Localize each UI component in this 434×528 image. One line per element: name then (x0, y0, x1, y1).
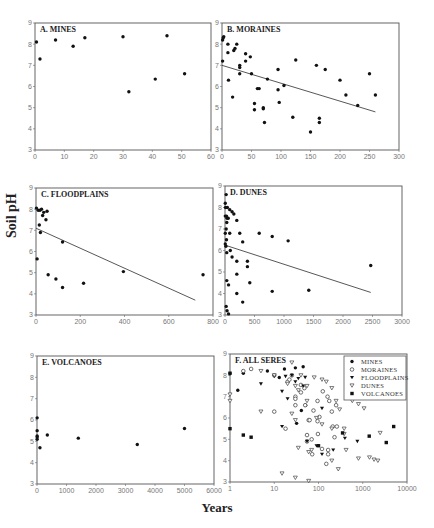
y-tick-label: 4 (223, 457, 227, 464)
y-tick-label: 9 (30, 352, 34, 359)
data-point-volcanoes (228, 372, 231, 375)
data-point-volcanoes (392, 425, 395, 428)
data-point-moraines (316, 432, 320, 436)
data-point (201, 273, 204, 276)
x-tick-label: 400 (119, 318, 131, 325)
x-tick-label: 3000 (394, 318, 410, 325)
x-tick-label: 40 (148, 153, 156, 160)
data-point (35, 257, 38, 260)
data-point (225, 279, 228, 282)
y-tick-label: 6 (30, 416, 34, 423)
data-point (222, 35, 225, 38)
y-tick-label: 3 (30, 480, 34, 487)
data-point-moraines (272, 410, 276, 414)
data-point (35, 429, 38, 432)
legend-label-moraines: MORAINES (361, 366, 397, 373)
data-point (154, 77, 157, 80)
y-tick-label: 6 (28, 83, 32, 90)
data-point (294, 58, 297, 61)
x-tick-label: 60 (207, 153, 215, 160)
data-point-volcanoes (242, 433, 245, 436)
data-point-moraines (249, 367, 253, 371)
data-point (61, 240, 64, 243)
data-point-moraines (326, 452, 330, 456)
y-tick-label: 4 (29, 290, 33, 297)
y-tick-label: 5 (223, 436, 227, 443)
data-point-mines (278, 376, 281, 379)
panel-title: A. MINES (40, 25, 77, 34)
data-point (35, 438, 38, 441)
y-tick-label: 5 (215, 104, 219, 111)
data-point (278, 101, 281, 104)
plot-area (37, 356, 214, 484)
y-tick-label: 6 (218, 247, 222, 254)
data-point (224, 193, 227, 196)
legend-marker-moraines (350, 368, 354, 372)
data-point-moraines (333, 435, 337, 439)
data-point (54, 277, 57, 280)
data-point (82, 282, 85, 285)
x-tick-label: 10 (60, 153, 68, 160)
data-point (262, 107, 265, 110)
y-tick-label: 3 (29, 311, 33, 318)
data-point (276, 68, 279, 71)
y-tick-label: 6 (29, 248, 33, 255)
data-point-moraines (294, 397, 298, 401)
y-tick-label: 8 (29, 206, 33, 213)
data-point (225, 251, 228, 254)
data-point (77, 436, 80, 439)
y-tick-label: 7 (218, 225, 222, 232)
data-point (224, 245, 227, 248)
data-point-moraines (320, 447, 324, 451)
x-tick-label: 0 (35, 487, 39, 494)
data-point (38, 446, 41, 449)
y-tick-label: 8 (28, 41, 32, 48)
y-tick-label: 3 (215, 146, 219, 153)
data-point (127, 90, 130, 93)
data-point (45, 210, 48, 213)
y-tick-label: 7 (215, 62, 219, 69)
data-point (318, 117, 321, 120)
plot-area (225, 186, 402, 315)
y-tick-label: 9 (28, 19, 32, 26)
data-point-moraines (284, 427, 288, 431)
y-tick-label: 9 (29, 184, 33, 191)
data-point (226, 51, 229, 54)
x-tick-label: 20 (90, 153, 98, 160)
data-point (248, 281, 251, 284)
data-point (271, 235, 274, 238)
data-point-moraines (305, 433, 309, 437)
data-point (231, 95, 234, 98)
x-tick-label: 30 (119, 153, 127, 160)
x-tick-label: 50 (248, 153, 256, 160)
panel-title: B. MORAINES (227, 25, 281, 34)
data-point (338, 78, 341, 81)
panel-title: C. FLOODPLAINS (41, 190, 109, 199)
data-point-moraines (312, 409, 316, 413)
x-tick-label: 200 (334, 153, 346, 160)
data-point (61, 286, 64, 289)
data-point-volcanoes (368, 434, 371, 437)
data-point (238, 232, 241, 235)
data-point (225, 238, 228, 241)
x-tick-label: 10000 (397, 485, 417, 492)
y-tick-label: 7 (29, 227, 33, 234)
data-point (229, 249, 232, 252)
panel-all-seres: 3456789110100100010000F. ALL SERESMINESM… (223, 350, 417, 492)
y-tick-label: 5 (28, 104, 32, 111)
legend-marker-volcanoes (350, 392, 353, 395)
data-point (71, 45, 74, 48)
data-point-moraines (321, 390, 325, 394)
data-point (46, 433, 49, 436)
data-point-moraines (308, 418, 312, 422)
data-point (224, 227, 227, 230)
data-point (165, 34, 168, 37)
data-point (238, 72, 241, 75)
data-point (249, 55, 252, 58)
data-point (307, 289, 310, 292)
panel-floodplains: 34567890200400600800C. FLOODPLAINS (29, 184, 219, 325)
y-tick-label: 3 (223, 478, 227, 485)
panel-volcanoes: 34567890100020003000400050006000E. VOLCA… (30, 352, 222, 494)
panel-mines: 34567890102030405060A. MINES (28, 19, 215, 160)
y-tick-label: 3 (28, 146, 32, 153)
